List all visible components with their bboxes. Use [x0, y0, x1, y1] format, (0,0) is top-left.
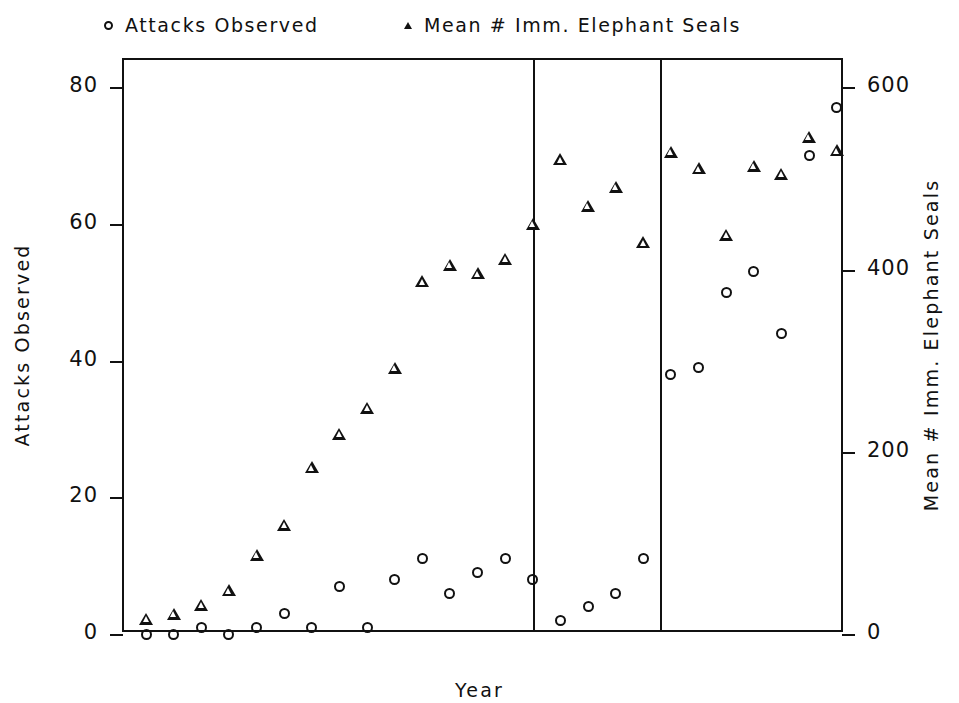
data-point-seals-76	[360, 402, 374, 414]
vertical-reference-line-1986.5	[660, 60, 662, 630]
y-left-tick-label-60: 60	[69, 210, 98, 234]
data-point-seals-92	[802, 131, 816, 143]
vertical-reference-line-1982	[533, 60, 535, 630]
data-point-attacks-91	[776, 328, 787, 339]
y-left-tick-label-40: 40	[69, 347, 98, 371]
data-point-seals-82	[526, 218, 540, 230]
legend-label-elephant-seals: Mean # Imm. Elephant Seals	[424, 14, 741, 36]
y-right-tick-600	[842, 87, 855, 89]
y-right-tick-label-0: 0	[867, 620, 881, 644]
data-point-seals-69	[167, 608, 181, 620]
data-point-attacks-85	[610, 588, 621, 599]
data-point-attacks-72	[251, 622, 262, 633]
data-point-seals-93	[830, 144, 844, 156]
y-left-tick-80	[110, 87, 123, 89]
plot-area	[122, 58, 843, 632]
data-point-seals-91	[774, 168, 788, 180]
data-point-attacks-75	[334, 581, 345, 592]
data-point-attacks-93	[831, 102, 842, 113]
triangle-marker-icon	[404, 22, 412, 29]
data-point-attacks-80	[472, 567, 483, 578]
data-point-seals-70	[194, 599, 208, 611]
x-axis-title: Year	[455, 679, 504, 701]
y-right-tick-label-600: 600	[867, 73, 910, 97]
data-point-attacks-86	[638, 553, 649, 564]
data-point-attacks-89	[721, 287, 732, 298]
data-point-attacks-74	[306, 622, 317, 633]
data-point-seals-90	[747, 160, 761, 172]
data-point-seals-88	[692, 162, 706, 174]
data-point-seals-81	[498, 253, 512, 265]
y-left-tick-label-0: 0	[84, 620, 98, 644]
data-point-attacks-70	[196, 622, 207, 633]
legend-entry-elephant-seals: Mean # Imm. Elephant Seals	[404, 14, 741, 36]
y-left-tick-40	[110, 361, 123, 363]
y-right-tick-label-400: 400	[867, 256, 910, 280]
y-right-tick-0	[842, 634, 855, 636]
data-point-attacks-84	[583, 601, 594, 612]
y-right-tick-label-200: 200	[867, 438, 910, 462]
data-point-attacks-92	[804, 150, 815, 161]
y-left-axis-title: Attacks Observed	[11, 243, 33, 446]
y-right-tick-400	[842, 270, 855, 272]
data-point-seals-86	[636, 236, 650, 248]
data-point-attacks-82	[527, 574, 538, 585]
y-left-tick-label-20: 20	[69, 483, 98, 507]
y-left-tick-label-80: 80	[69, 73, 98, 97]
legend-label-attacks-observed: Attacks Observed	[125, 14, 319, 36]
data-point-seals-84	[581, 200, 595, 212]
scatter-chart-figure: Attacks Observed Mean # Imm. Elephant Se…	[0, 0, 959, 703]
data-point-attacks-81	[500, 553, 511, 564]
y-right-axis-title: Mean # Imm. Elephant Seals	[920, 179, 942, 512]
data-point-attacks-71	[223, 629, 234, 640]
data-point-attacks-88	[693, 362, 704, 373]
data-point-attacks-78	[417, 553, 428, 564]
data-point-seals-74	[305, 461, 319, 473]
data-point-attacks-90	[748, 266, 759, 277]
data-point-seals-87	[664, 146, 678, 158]
data-point-attacks-69	[168, 629, 179, 640]
circle-marker-icon	[104, 21, 113, 30]
legend-entry-attacks-observed: Attacks Observed	[104, 14, 319, 36]
data-point-attacks-68	[141, 629, 152, 640]
data-point-attacks-73	[279, 608, 290, 619]
data-point-seals-71	[222, 584, 236, 596]
y-left-tick-0	[110, 634, 123, 636]
data-point-attacks-76	[362, 622, 373, 633]
data-point-attacks-87	[665, 369, 676, 380]
data-point-seals-89	[719, 229, 733, 241]
y-left-tick-20	[110, 497, 123, 499]
data-point-seals-83	[553, 153, 567, 165]
data-point-seals-68	[139, 613, 153, 625]
chart-legend: Attacks Observed Mean # Imm. Elephant Se…	[0, 8, 959, 44]
data-point-seals-79	[443, 259, 457, 271]
y-right-tick-200	[842, 452, 855, 454]
data-point-seals-77	[388, 362, 402, 374]
data-point-seals-73	[277, 519, 291, 531]
data-point-attacks-83	[555, 615, 566, 626]
data-point-attacks-79	[444, 588, 455, 599]
y-left-tick-60	[110, 224, 123, 226]
data-point-seals-75	[332, 428, 346, 440]
data-point-seals-80	[471, 267, 485, 279]
data-point-attacks-77	[389, 574, 400, 585]
data-point-seals-85	[609, 181, 623, 193]
data-point-seals-72	[250, 549, 264, 561]
data-point-seals-78	[415, 275, 429, 287]
